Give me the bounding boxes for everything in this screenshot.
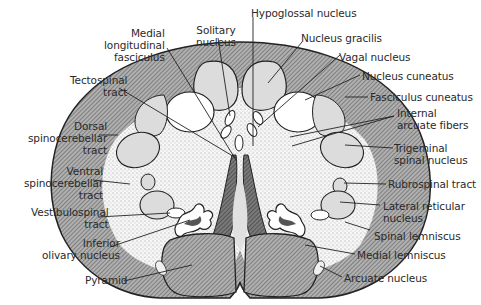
label-nucleus-gracilis: Nucleus gracilis xyxy=(301,32,382,44)
rubrospinal-left xyxy=(141,174,155,190)
label-line: arcuate fibers xyxy=(397,119,468,131)
label-pyramid: Pyramid xyxy=(85,274,127,286)
label-dorsal-spinocerebellar-tract: Dorsal spinocerebellar tract xyxy=(28,120,107,156)
label-line: nucleus xyxy=(383,212,465,224)
pyramid-left xyxy=(162,234,236,297)
label-vestibulospinal-tract: Vestibulospinal tract xyxy=(31,206,109,230)
label-line: Nucleus cuneatus xyxy=(362,70,454,82)
label-line: spinal nucleus xyxy=(394,154,468,166)
label-tectospinal-tract: Tectospinal tract xyxy=(70,74,127,98)
label-spinal-lemniscus: Spinal lemniscus xyxy=(374,230,461,242)
label-ventral-spinocerebellar-tract: Ventral spinocerebellar tract xyxy=(24,165,103,201)
label-medial-longitudinal-fasciculus: Medial longitudinal fasciculus xyxy=(104,27,165,63)
label-line: Spinal lemniscus xyxy=(374,230,461,242)
label-hypoglossal-nucleus: Hypoglossal nucleus xyxy=(251,7,357,19)
label-line: Pyramid xyxy=(85,274,127,286)
label-line: Rubrospinal tract xyxy=(388,178,476,190)
label-nucleus-cuneatus: Nucleus cuneatus xyxy=(362,70,454,82)
label-line: tract xyxy=(70,86,127,98)
label-medial-lemniscus: Medial lemniscus xyxy=(357,249,446,261)
label-line: Medial xyxy=(104,27,165,39)
label-line: Dorsal xyxy=(28,120,107,132)
label-line: tract xyxy=(24,189,103,201)
label-line: spinocerebellar xyxy=(28,132,107,144)
label-line: olivary nucleus xyxy=(42,249,120,261)
label-line: Tectospinal xyxy=(70,74,127,86)
label-fasciculus-cuneatus: Fasciculus cuneatus xyxy=(370,91,473,103)
label-line: Internal xyxy=(397,107,468,119)
label-line: Medial lemniscus xyxy=(357,249,446,261)
label-line: tract xyxy=(28,144,107,156)
label-line: Ventral xyxy=(24,165,103,177)
label-line: tract xyxy=(31,218,109,230)
label-line: Trigeminal xyxy=(394,142,468,154)
label-arcuate-nucleus: Arcuate nucleus xyxy=(344,272,427,284)
label-line: Fasciculus cuneatus xyxy=(370,91,473,103)
label-line: Hypoglossal nucleus xyxy=(251,7,357,19)
label-line: Vagal nucleus xyxy=(339,51,410,63)
label-line: Nucleus gracilis xyxy=(301,32,382,44)
label-vagal-nucleus: Vagal nucleus xyxy=(339,51,410,63)
label-line: longitudinal xyxy=(104,39,165,51)
vestibulospinal-right xyxy=(311,210,329,220)
label-solitary-nucleus: Solitary nucleus xyxy=(196,24,236,48)
label-line: Vestibulospinal xyxy=(31,206,109,218)
label-trigeminal-spinal-nucleus: Trigeminal spinal nucleus xyxy=(394,142,468,166)
label-line: Inferior xyxy=(42,237,120,249)
label-line: spinocerebellar xyxy=(24,177,103,189)
label-line: fasciculus xyxy=(104,51,165,63)
label-line: Arcuate nucleus xyxy=(344,272,427,284)
hypoglossal-oval-left xyxy=(235,135,243,151)
label-line: Solitary xyxy=(196,24,236,36)
label-lateral-reticular-nucleus: Lateral reticular nucleus xyxy=(383,200,465,224)
label-internal-arcuate-fibers: Internal arcuate fibers xyxy=(397,107,468,131)
label-line: nucleus xyxy=(196,36,236,48)
label-line: Lateral reticular xyxy=(383,200,465,212)
label-rubrospinal-tract: Rubrospinal tract xyxy=(388,178,476,190)
pyramid-right xyxy=(244,234,318,297)
label-inferior-olivary-nucleus: Inferior olivary nucleus xyxy=(42,237,120,261)
